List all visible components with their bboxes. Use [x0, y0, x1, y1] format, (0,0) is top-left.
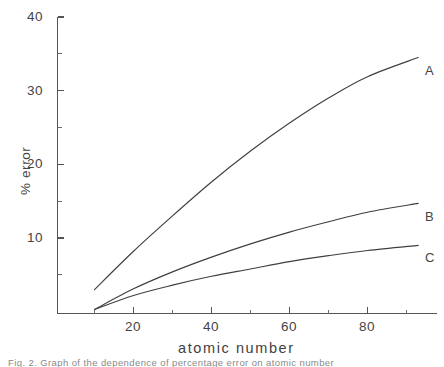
series-line-b	[95, 203, 419, 309]
x-tick-label-20: 20	[125, 319, 141, 334]
figure-caption: Fig. 2. Graph of the dependence of perce…	[8, 359, 334, 367]
series-line-c	[95, 245, 419, 309]
y-tick-label-30: 30	[27, 83, 43, 98]
series-line-a	[95, 58, 419, 290]
x-tick-label-40: 40	[203, 319, 219, 334]
figure-caption-clip: Fig. 2. Graph of the dependence of perce…	[8, 359, 438, 367]
y-tick-label-10: 10	[27, 230, 43, 245]
curve-label-c: C	[425, 250, 435, 265]
y-tick-label-40: 40	[27, 9, 43, 24]
x-axis-title: atomic number	[178, 340, 295, 356]
y-axis-title: % error	[18, 147, 33, 195]
curve-label-b: B	[425, 209, 434, 224]
x-tick-label-60: 60	[281, 319, 297, 334]
figure-container: 40 30 20 10 20 40 60 80 % error atomic n…	[0, 0, 444, 367]
x-tick-label-80: 80	[359, 319, 375, 334]
curve-label-a: A	[425, 63, 434, 78]
chart-plot-area	[0, 0, 444, 367]
